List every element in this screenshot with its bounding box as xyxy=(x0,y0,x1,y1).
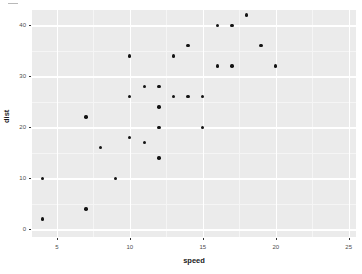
data-point xyxy=(230,64,233,67)
y-tick-mark xyxy=(29,76,31,77)
y-tick-mark xyxy=(29,25,31,26)
y-tick-label: 40 xyxy=(10,22,26,29)
grid-line-minor-horizontal xyxy=(32,51,356,52)
x-tick-label: 20 xyxy=(272,244,279,251)
data-point xyxy=(84,115,87,118)
data-point xyxy=(230,24,233,27)
x-tick-mark xyxy=(130,238,131,240)
grid-line-major-horizontal xyxy=(32,178,356,179)
x-tick-label: 15 xyxy=(199,244,206,251)
x-tick-label: 5 xyxy=(55,244,58,251)
grid-line-minor-vertical xyxy=(312,10,313,237)
data-point xyxy=(172,95,175,98)
y-tick-label: 10 xyxy=(10,175,26,182)
y-tick-label: 30 xyxy=(10,73,26,80)
y-tick-mark xyxy=(29,229,31,230)
grid-line-major-vertical xyxy=(276,10,277,237)
x-axis-title: speed xyxy=(32,256,356,265)
grid-line-minor-vertical xyxy=(93,10,94,237)
grid-line-major-horizontal xyxy=(32,76,356,77)
data-point xyxy=(41,177,44,180)
data-point xyxy=(172,54,175,57)
y-tick-label: 20 xyxy=(10,124,26,131)
grid-line-major-vertical xyxy=(203,10,204,237)
data-point xyxy=(114,177,117,180)
data-point xyxy=(143,85,146,88)
data-point xyxy=(216,24,219,27)
grid-line-minor-vertical xyxy=(166,10,167,237)
x-tick-mark xyxy=(203,238,204,240)
x-tick-mark xyxy=(276,238,277,240)
plot-panel xyxy=(32,10,356,237)
data-point xyxy=(99,146,102,149)
data-point xyxy=(157,105,160,108)
x-tick-mark xyxy=(57,238,58,240)
grid-line-minor-horizontal xyxy=(32,153,356,154)
x-tick-label: 10 xyxy=(126,244,133,251)
grid-line-major-horizontal xyxy=(32,229,356,230)
data-point xyxy=(186,95,189,98)
y-tick-label: 0 xyxy=(10,226,26,233)
data-point xyxy=(41,217,44,220)
data-point xyxy=(245,13,248,16)
data-point xyxy=(259,44,262,47)
data-point xyxy=(157,85,160,88)
data-point xyxy=(186,44,189,47)
y-axis-title: dist xyxy=(2,110,11,123)
data-point xyxy=(143,141,146,144)
data-point xyxy=(157,156,160,159)
x-tick-label: 25 xyxy=(345,244,352,251)
grid-line-major-horizontal xyxy=(32,25,356,26)
grid-line-major-vertical xyxy=(130,10,131,237)
grid-line-major-vertical xyxy=(349,10,350,237)
top-edge-artifact xyxy=(8,3,18,4)
y-tick-mark xyxy=(29,178,31,179)
grid-line-major-vertical xyxy=(57,10,58,237)
x-tick-mark xyxy=(349,238,350,240)
data-point xyxy=(216,64,219,67)
grid-line-minor-horizontal xyxy=(32,204,356,205)
scatter-plot-figure: 010203040 510152025 speed dist xyxy=(0,0,362,274)
grid-line-minor-horizontal xyxy=(32,102,356,103)
grid-line-major-horizontal xyxy=(32,127,356,128)
data-point xyxy=(84,207,87,210)
grid-line-minor-vertical xyxy=(239,10,240,237)
data-point xyxy=(157,126,160,129)
y-tick-mark xyxy=(29,127,31,128)
